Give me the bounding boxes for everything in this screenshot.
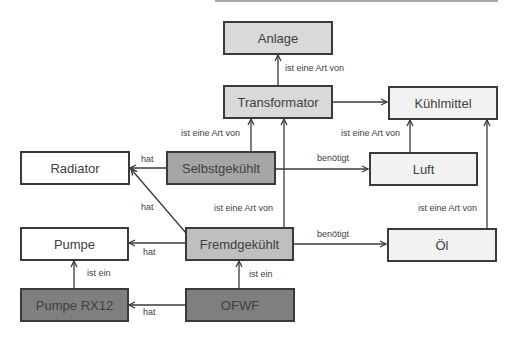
node-anlage[interactable]: Anlage [223, 21, 333, 55]
node-kuehlmittel[interactable]: Kühlmittel [388, 86, 498, 120]
node-pumpe-rx12[interactable]: Pumpe RX12 [20, 288, 129, 322]
label-selbst-luft: benötigt [317, 153, 349, 163]
node-pumpe[interactable]: Pumpe [20, 227, 129, 261]
node-oel[interactable]: Öl [387, 228, 497, 262]
label-fremd-radiator: hat [141, 202, 154, 212]
label-fremd-transformator: ist eine Art von [214, 203, 273, 213]
label-fremd-pumpe: hat [143, 247, 156, 257]
node-ofwf[interactable]: OFWF [185, 288, 295, 322]
label-ofwf-rx12: hat [143, 307, 156, 317]
label-luft-kuehlmittel: ist eine Art von [341, 128, 400, 138]
label-selbst-transformator: ist eine Art von [181, 128, 240, 138]
node-radiator[interactable]: Radiator [20, 151, 130, 185]
node-transformator[interactable]: Transformator [223, 85, 333, 119]
label-selbst-radiator: hat [141, 154, 154, 164]
label-oel-kuehlmittel: ist eine Art von [418, 203, 477, 213]
node-luft[interactable]: Luft [369, 152, 478, 186]
node-selbstgekuehlt[interactable]: Selbstgekühlt [166, 151, 276, 185]
node-fremdgekuehlt[interactable]: Fremdgekühlt [185, 227, 294, 261]
label-transformator-anlage: ist eine Art von [285, 63, 344, 73]
label-ofwf-fremd: ist ein [249, 269, 273, 279]
label-fremd-oel: benötigt [317, 229, 349, 239]
label-rx12-pumpe: ist ein [87, 268, 111, 278]
